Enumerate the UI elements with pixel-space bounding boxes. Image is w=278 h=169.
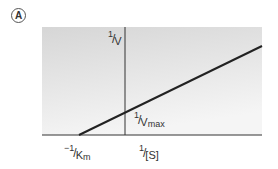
x-intercept-label: −1/Km: [64, 143, 90, 162]
y-intercept-label: 1/Vmax: [134, 110, 165, 129]
y-axis-label: 1/V: [108, 29, 122, 47]
x-axis-label: 1/[S]: [139, 143, 159, 161]
